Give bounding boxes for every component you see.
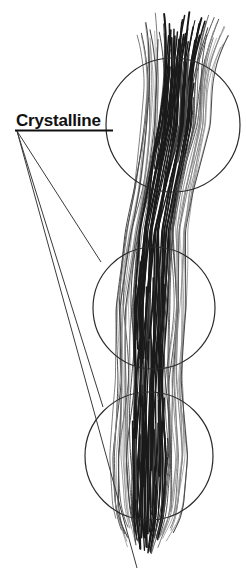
crystalline-core-fibril — [144, 439, 145, 487]
crystalline-figure: Crystalline — [0, 0, 247, 573]
crystalline-label: Crystalline — [16, 111, 101, 130]
figure-root: Crystalline — [0, 0, 247, 573]
